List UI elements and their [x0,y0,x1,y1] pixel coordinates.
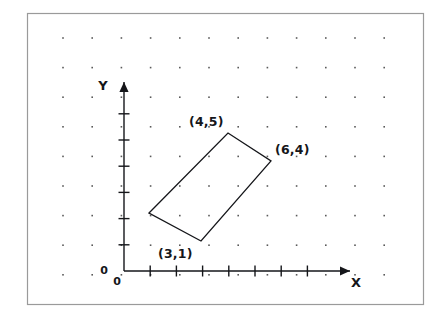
grid-dot [62,96,64,98]
grid-dot [383,244,385,246]
grid-dot [208,67,210,69]
grid-dot [296,67,298,69]
grid-dot [91,67,93,69]
grid-dot [383,274,385,276]
grid-dot [121,126,123,128]
grid-dot [354,185,356,187]
grid-dot [354,37,356,39]
grid-dot [296,215,298,217]
grid-dot [208,274,210,276]
grid-dot [121,67,123,69]
grid-dot [383,126,385,128]
grid-dot [237,215,239,217]
grid-dot [91,244,93,246]
grid-dot [150,37,152,39]
grid-dot [354,96,356,98]
y-axis-zero-label: 0 [100,264,108,277]
figure-frame [28,14,424,305]
x-axis-zero-label: 0 [113,275,121,288]
grid-dot [237,244,239,246]
grid-dot [383,37,385,39]
grid-dot [325,215,327,217]
grid-dot [296,185,298,187]
grid-dot [179,185,181,187]
grid-dot [150,126,152,128]
grid-dot [237,37,239,39]
grid-dot [383,215,385,217]
grid-dot [121,185,123,187]
grid-dot [296,37,298,39]
grid-dot [325,185,327,187]
grid-dot [354,215,356,217]
grid-dot [325,96,327,98]
grid-dot [208,156,210,158]
grid-dot [267,156,269,158]
grid-dot [150,244,152,246]
grid-dot [91,37,93,39]
grid-dot [325,37,327,39]
grid-dot [267,274,269,276]
coordinate-plot-figure: Y X 0 0 (3,1)(4,5)(6,4) [0,0,446,321]
grid-dot [208,37,210,39]
grid-dot [383,156,385,158]
grid-dot [179,215,181,217]
grid-dot [383,185,385,187]
grid-dot [237,156,239,158]
vertex-label-64: (6,4) [275,142,310,157]
grid-dot [267,126,269,128]
grid-dot [91,274,93,276]
grid-dot [121,215,123,217]
grid-dot [267,96,269,98]
grid-dot [62,274,64,276]
grid-dot [150,215,152,217]
grid-dot [354,67,356,69]
vertex-label-31: (3,1) [158,246,193,261]
grid-dot [91,185,93,187]
grid-dot [179,96,181,98]
grid-dot [296,126,298,128]
grid-dot [62,126,64,128]
grid-dot [383,96,385,98]
grid-dot [208,215,210,217]
grid-dot [150,185,152,187]
grid-dot [91,156,93,158]
grid-dot [296,244,298,246]
grid-dot [354,126,356,128]
grid-dot [267,244,269,246]
y-axis-label: Y [97,78,108,93]
grid-dot [208,244,210,246]
grid-dot [62,185,64,187]
grid-dot [62,156,64,158]
grid-dot [296,96,298,98]
grid-dot [325,156,327,158]
grid-dot [267,185,269,187]
grid-dot [179,37,181,39]
grid-dot [121,156,123,158]
grid-dot [62,37,64,39]
grid-dot [354,244,356,246]
grid-dot [325,274,327,276]
vertex-label-45: (4,5) [189,114,224,129]
grid-dot [121,96,123,98]
grid-dot [208,96,210,98]
grid-dot [267,215,269,217]
grid-dot [354,156,356,158]
grid-dot [91,215,93,217]
grid-dot [62,67,64,69]
grid-dot [62,215,64,217]
grid-dot [237,185,239,187]
grid-dot [179,156,181,158]
grid-dot [179,274,181,276]
grid-dot [62,244,64,246]
grid-dot [179,67,181,69]
grid-dot [91,96,93,98]
grid-dot [179,126,181,128]
grid-dot [121,37,123,39]
grid-dot [325,67,327,69]
grid-dot [325,244,327,246]
grid-dot [296,274,298,276]
grid-dot [325,126,327,128]
figure-canvas: Y X 0 0 (3,1)(4,5)(6,4) [0,0,446,321]
grid-dot [383,67,385,69]
grid-dot [91,126,93,128]
